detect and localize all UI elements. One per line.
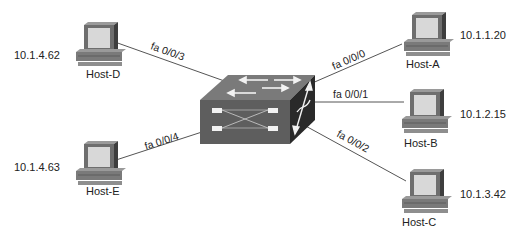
host-c: Host-C 10.1.3.42 bbox=[402, 169, 506, 228]
computer-icon bbox=[402, 89, 452, 133]
host-ip: 10.1.2.15 bbox=[460, 108, 506, 120]
port-label-host-a: fa 0/0/0 bbox=[330, 47, 367, 72]
port-label-host-d: fa 0/0/3 bbox=[149, 40, 186, 63]
computer-icon bbox=[402, 169, 452, 213]
computer-icon bbox=[404, 12, 454, 56]
port-label-host-c: fa 0/0/2 bbox=[335, 127, 372, 154]
port-label-host-e: fa 0/0/4 bbox=[143, 130, 180, 152]
host-d: Host-D 10.1.4.62 bbox=[14, 22, 126, 80]
host-ip: 10.1.4.62 bbox=[14, 49, 60, 61]
switch-icon bbox=[200, 75, 315, 144]
host-name: Host-C bbox=[402, 216, 436, 228]
computer-icon bbox=[76, 141, 126, 185]
host-name: Host-D bbox=[86, 68, 120, 80]
host-ip: 10.1.4.63 bbox=[14, 161, 60, 173]
host-e: Host-E 10.1.4.63 bbox=[14, 141, 126, 197]
host-ip: 10.1.1.20 bbox=[460, 29, 506, 41]
host-ip: 10.1.3.42 bbox=[460, 188, 506, 200]
host-b: Host-B 10.1.2.15 bbox=[402, 89, 506, 149]
host-name: Host-A bbox=[406, 58, 440, 70]
port-label-host-b: fa 0/0/1 bbox=[333, 88, 368, 100]
computer-icon bbox=[76, 22, 126, 66]
link-host-c bbox=[302, 124, 406, 181]
host-a: Host-A 10.1.1.20 bbox=[404, 12, 506, 70]
network-diagram: Host-D 10.1.4.62 Host-E 10.1.4.63 Host-A… bbox=[0, 0, 521, 238]
host-name: Host-E bbox=[86, 185, 120, 197]
host-name: Host-B bbox=[404, 137, 438, 149]
